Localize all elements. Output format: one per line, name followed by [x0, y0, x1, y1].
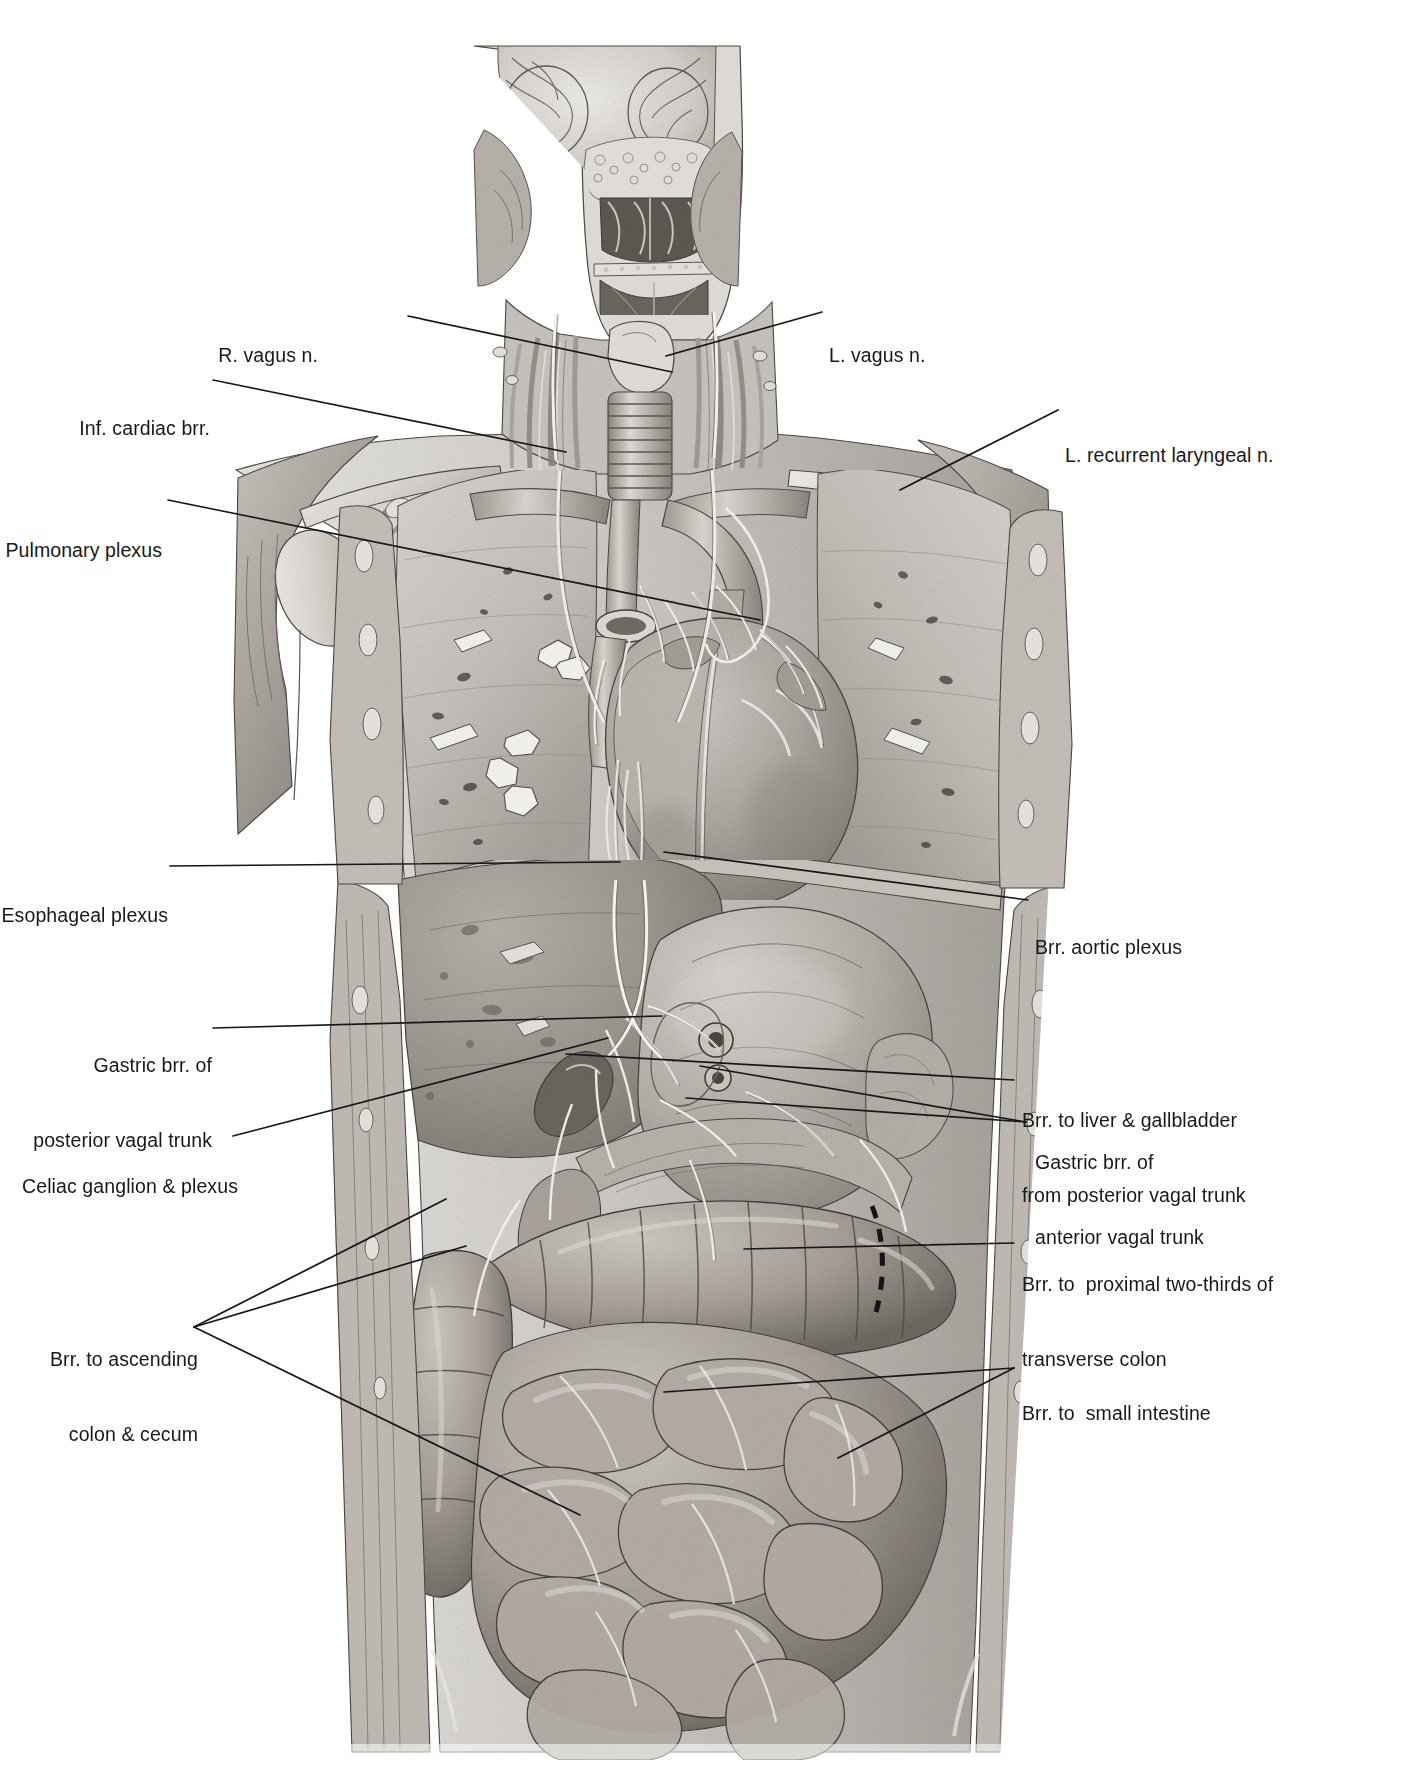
label-pulmonary-plexus: Pulmonary plexus — [5, 488, 162, 588]
label-liver-gallbladder-posterior-vagal: Brr. to liver & gallbladder from posteri… — [1022, 1058, 1246, 1233]
label-l-vagus: L. vagus n. — [829, 293, 926, 393]
label-esophageal-plexus: Esophageal plexus — [2, 853, 169, 953]
nasal-cavity — [600, 198, 700, 262]
larynx-trachea — [608, 321, 674, 500]
label-brr-aortic-plexus: Brr. aortic plexus — [1035, 885, 1182, 985]
label-l-recurrent-laryngeal: L. recurrent laryngeal n. — [1065, 393, 1273, 493]
thorax-region — [396, 466, 1014, 907]
label-celiac-ganglion-plexus: Celiac ganglion & plexus — [22, 1124, 238, 1224]
label-ascending-colon-cecum: Brr. to ascending colon & cecum — [50, 1297, 198, 1472]
label-small-intestine: Brr. to small intestine — [1022, 1351, 1211, 1451]
label-r-vagus: R. vagus n. — [218, 293, 318, 393]
label-inf-cardiac: Inf. cardiac brr. — [79, 366, 210, 466]
anatomical-plate — [0, 0, 1420, 1769]
